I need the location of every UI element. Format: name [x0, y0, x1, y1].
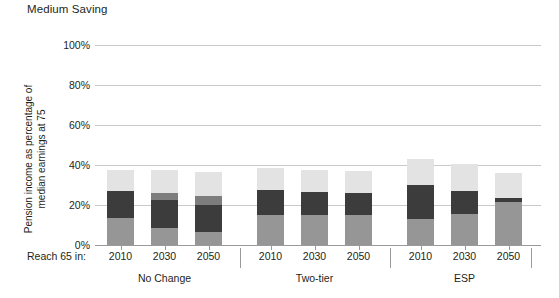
bar-segment-segment-top	[107, 170, 134, 191]
bar-segment-segment-dark	[257, 190, 284, 215]
y-axis-tick-label: 100%	[63, 40, 90, 51]
bar-segment-segment-top	[301, 170, 328, 192]
y-axis-tick-label: 40%	[69, 160, 90, 171]
bar-segment-segment-bottom	[301, 215, 328, 245]
bar-segment-segment-dark	[301, 192, 328, 215]
x-axis-caption: Reach 65 in:	[27, 250, 86, 263]
bar-2030[interactable]	[451, 164, 478, 245]
bar-segment-segment-bottom	[195, 232, 222, 245]
gridline	[95, 85, 541, 86]
x-axis-tick-label: 2030	[442, 250, 488, 262]
bar-segment-segment-dark	[151, 200, 178, 228]
bar-segment-segment-top	[495, 173, 522, 198]
bar-segment-segment-top	[257, 168, 284, 190]
bar-segment-segment-dark	[107, 191, 134, 218]
x-axis-tick-label: 2050	[486, 250, 532, 262]
chart-title: Medium Saving	[27, 3, 108, 15]
bar-segment-segment-mid	[195, 196, 222, 205]
group-label-two-tier: Two-tier	[255, 272, 375, 284]
group-separator	[240, 248, 241, 268]
bar-2010[interactable]	[407, 159, 434, 245]
group-separator	[531, 248, 532, 268]
group-separator	[390, 248, 391, 268]
bar-segment-segment-top	[195, 172, 222, 196]
y-axis-tick-label: 80%	[69, 80, 90, 91]
x-axis-tick-label: 2050	[186, 250, 232, 262]
bar-segment-segment-bottom	[345, 215, 372, 245]
bar-2050[interactable]	[195, 172, 222, 245]
bar-2030[interactable]	[301, 170, 328, 245]
x-axis-line	[95, 245, 541, 246]
plot-area: 0%20%40%60%80%100%	[95, 45, 541, 245]
bar-segment-segment-dark	[345, 193, 372, 215]
bar-segment-segment-bottom	[407, 219, 434, 245]
bar-segment-segment-top	[407, 159, 434, 185]
bar-2050[interactable]	[345, 171, 372, 245]
bar-segment-segment-mid	[151, 193, 178, 200]
bar-2050[interactable]	[495, 173, 522, 245]
bar-segment-segment-top	[151, 170, 178, 193]
x-axis-tick-label: 2030	[292, 250, 338, 262]
bar-segment-segment-bottom	[151, 228, 178, 245]
x-axis-tick-label: 2010	[398, 250, 444, 262]
gridline	[95, 45, 541, 46]
bar-segment-segment-dark	[407, 185, 434, 219]
bar-segment-segment-top	[451, 164, 478, 191]
y-axis-label: Pension income as percentage of median e…	[22, 74, 48, 244]
bar-segment-segment-top	[345, 171, 372, 193]
group-label-no-change: No Change	[105, 272, 225, 284]
bar-segment-segment-bottom	[495, 202, 522, 245]
y-axis-tick-label: 0%	[75, 240, 90, 251]
x-axis-tick-label: 2010	[98, 250, 144, 262]
group-label-esp: ESP	[405, 272, 525, 284]
x-axis-tick-label: 2030	[142, 250, 188, 262]
bar-2010[interactable]	[257, 168, 284, 245]
bar-segment-segment-dark	[195, 205, 222, 232]
bar-2030[interactable]	[151, 170, 178, 245]
bar-segment-segment-bottom	[257, 215, 284, 245]
gridline	[95, 125, 541, 126]
bar-2010[interactable]	[107, 170, 134, 245]
bar-segment-segment-bottom	[451, 214, 478, 245]
y-axis-tick-label: 60%	[69, 120, 90, 131]
x-axis-tick-label: 2010	[248, 250, 294, 262]
bar-segment-segment-bottom	[107, 218, 134, 245]
x-axis-tick-label: 2050	[336, 250, 382, 262]
bar-segment-segment-dark	[451, 191, 478, 214]
y-axis-tick-label: 20%	[69, 200, 90, 211]
